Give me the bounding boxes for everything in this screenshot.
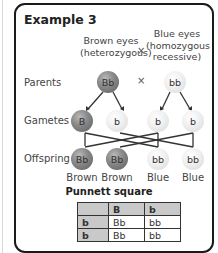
offspring-ball-2: Bb: [106, 148, 128, 170]
gamete-ball-1: B: [71, 110, 93, 132]
punnett-col-header: b: [145, 203, 181, 216]
punnett-row: b Bb bb: [78, 216, 181, 229]
punnett-row-header: b: [78, 216, 109, 229]
offspring-phenotype-3: Blue: [140, 172, 176, 183]
punnett-row-header: b: [78, 229, 109, 242]
offspring-phenotype-4: Blue: [175, 172, 211, 183]
offspring-ball-3: bb: [147, 148, 169, 170]
punnett-col-header: B: [109, 203, 145, 216]
punnett-cell: Bb: [109, 229, 145, 242]
offspring-phenotype-1: Brown: [64, 172, 100, 183]
punnett-title: Punnett square: [0, 186, 218, 197]
gamete-ball-3: b: [147, 110, 169, 132]
punnett-cell: bb: [145, 229, 181, 242]
punnett-cell: Bb: [109, 216, 145, 229]
gamete-ball-4: b: [182, 110, 204, 132]
gamete-ball-2: b: [106, 110, 128, 132]
cross-symbol-parents: ×: [137, 75, 145, 86]
punnett-cell: bb: [145, 216, 181, 229]
offspring-ball-1: Bb: [71, 148, 93, 170]
punnett-header-row: B b: [78, 203, 181, 216]
offspring-phenotype-2: Brown: [99, 172, 135, 183]
punnett-corner: [78, 203, 109, 216]
offspring-ball-4: bb: [182, 148, 204, 170]
parent1-ball: Bb: [97, 71, 119, 93]
punnett-row: b Bb bb: [78, 229, 181, 242]
parent2-ball: bb: [164, 71, 186, 93]
punnett-square: B b b Bb bb b Bb bb: [77, 202, 181, 242]
